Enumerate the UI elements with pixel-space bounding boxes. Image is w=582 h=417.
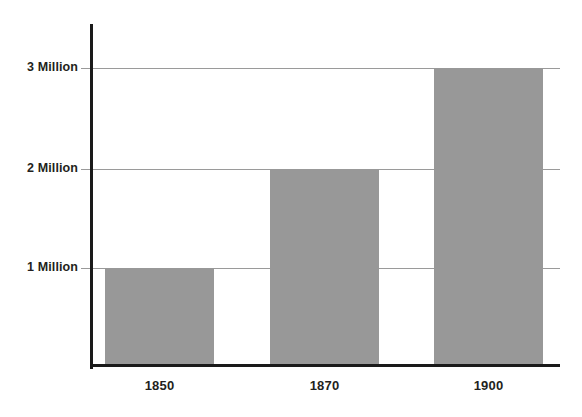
y-axis-label-2-million-slot: 2 Million	[0, 161, 78, 177]
bar-chart-figure: 3 Million 2 Million 1 Million 1850 1870 …	[0, 0, 582, 417]
plot-area: 3 Million 2 Million 1 Million 1850 1870 …	[0, 0, 582, 417]
bar-1850	[105, 268, 214, 366]
x-axis-label-1850: 1850	[105, 378, 214, 393]
x-axis-label-1870: 1870	[270, 378, 379, 393]
y-axis-label-3-million-slot: 3 Million	[0, 60, 78, 76]
y-axis-line	[90, 24, 93, 369]
y-axis-label-1-million: 1 Million	[0, 260, 78, 274]
y-axis-label-1-million-slot: 1 Million	[0, 260, 78, 276]
y-axis-label-3-million: 3 Million	[0, 60, 78, 74]
y-axis-label-2-million: 2 Million	[0, 161, 78, 175]
x-axis-line	[90, 364, 560, 367]
bar-1900	[434, 68, 543, 366]
bar-1870	[270, 169, 379, 366]
x-axis-label-1900: 1900	[434, 378, 543, 393]
